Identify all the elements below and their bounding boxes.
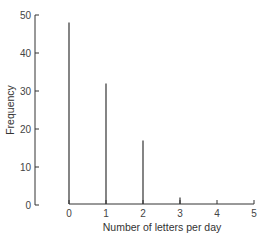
x-tick-label: 3 (177, 208, 183, 219)
y-tick-label: 10 (20, 162, 32, 173)
stem-chart: 01020304050 012345 Frequency Number of l… (0, 0, 266, 240)
y-tick-label: 0 (25, 200, 31, 211)
x-axis-label: Number of letters per day (103, 221, 222, 233)
y-tick-label: 20 (20, 124, 32, 135)
y-tick-label: 40 (20, 48, 32, 59)
x-tick-label: 0 (66, 208, 72, 219)
x-tick-label: 4 (214, 208, 220, 219)
y-axis-label: Frequency (4, 84, 16, 134)
stems (69, 23, 180, 204)
x-tick-label: 1 (103, 208, 109, 219)
y-tick-label: 50 (20, 10, 32, 21)
x-tick-label: 2 (140, 208, 146, 219)
x-tick-label: 5 (251, 208, 257, 219)
x-axis: 012345 (66, 200, 257, 219)
y-axis: 01020304050 (20, 10, 39, 211)
y-tick-label: 30 (20, 86, 32, 97)
